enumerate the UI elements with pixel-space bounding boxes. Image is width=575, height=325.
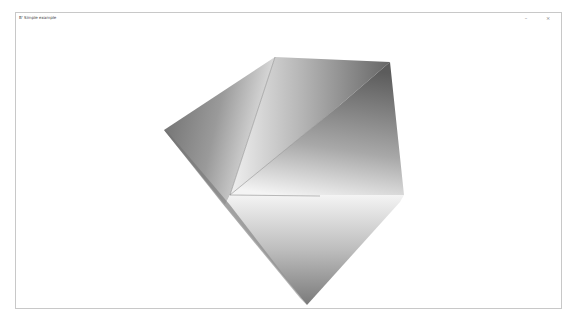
mesh xyxy=(164,57,404,305)
facet-bottom xyxy=(225,195,404,305)
render-canvas[interactable] xyxy=(0,0,575,325)
